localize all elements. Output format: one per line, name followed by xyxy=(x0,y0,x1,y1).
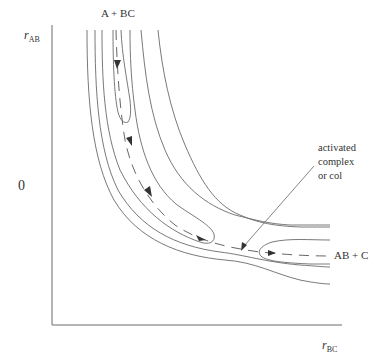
pes-diagram: rAB rBC 0 A + BC AB + C activated comple… xyxy=(0,0,383,362)
x-axis-label: rBC xyxy=(322,338,337,354)
contour-outer-right-1 xyxy=(141,30,330,225)
products-label: AB + C xyxy=(334,249,368,261)
reaction-path xyxy=(116,30,330,256)
contour-outer-right-2 xyxy=(158,30,330,227)
reactants-label: A + BC xyxy=(101,7,135,19)
contour-outer-left-2 xyxy=(87,30,330,284)
path-arrow-2 xyxy=(126,136,132,146)
path-arrow-5 xyxy=(268,250,276,256)
annotation-pointer-line xyxy=(244,166,314,246)
origin-label: 0 xyxy=(18,178,25,193)
contour-reactant-inner xyxy=(113,30,131,123)
path-arrow-4 xyxy=(196,235,206,241)
path-arrow-1 xyxy=(114,60,121,69)
y-axis-label: rAB xyxy=(24,28,40,44)
annotation-line-3: or col xyxy=(318,170,342,181)
annotation-line-2: complex xyxy=(318,156,355,167)
annotation-line-1: activated xyxy=(318,142,357,153)
